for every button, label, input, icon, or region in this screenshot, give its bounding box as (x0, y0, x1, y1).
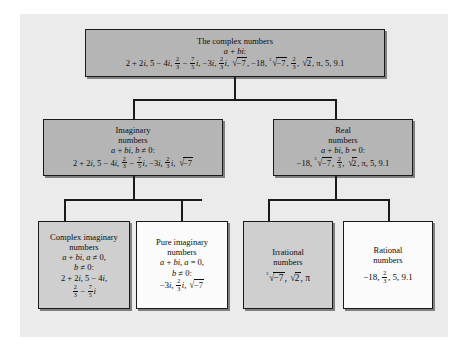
complex-imaginary-form-line2: b ≠ 0: (74, 262, 94, 273)
connector-to-real (335, 99, 337, 119)
connector-complex-down (234, 77, 236, 99)
real-examples: −18, 3√−7, 23, √2, π, 5, 9.1 (297, 156, 389, 170)
irrational-title-line2: numbers (273, 257, 302, 267)
complex-imaginary-examples-line2: 23 − 75i (72, 284, 96, 298)
real-title-line1: Real (335, 125, 351, 135)
irrational-title-line1: Irrational (272, 247, 304, 257)
complex-imaginary-title-line2: numbers (69, 242, 98, 252)
complex-imaginary-form-line1: a + bi, a ≠ 0, (62, 252, 106, 263)
real-title-line2: numbers (328, 135, 357, 145)
node-real-numbers: Real numbers a + bi, b = 0: −18, 3√−7, 2… (273, 119, 413, 176)
complex-imaginary-title-line1: Complex imaginary (50, 232, 118, 242)
node-complex-imaginary-numbers: Complex imaginary numbers a + bi, a ≠ 0,… (38, 221, 130, 309)
node-pure-imaginary-numbers: Pure imaginary numbers a + bi, a = 0, b … (136, 221, 228, 309)
pure-imaginary-title-line1: Pure imaginary (156, 237, 208, 247)
connector-imaginary-down (133, 176, 135, 199)
irrational-examples: 3√−7, √2, π (266, 272, 310, 284)
rational-title-line1: Rational (374, 245, 403, 255)
real-form: a + bi, b = 0: (321, 145, 365, 156)
node-irrational-numbers: Irrational numbers 3√−7, √2, π (243, 221, 333, 309)
complex-imaginary-examples-line1: 2 + 2i, 5 − 4i, (61, 273, 107, 284)
pure-imaginary-form-line1: a + bi, a = 0, (160, 257, 204, 268)
node-complex-numbers: The complex numbers a + bi: 2 + 2i, 5 − … (85, 29, 385, 77)
rational-examples: −18, 23, 5, 9.1 (363, 270, 412, 284)
connector-real-down (335, 176, 337, 199)
pure-imaginary-examples: −3i, 23i, √−7 (160, 278, 204, 292)
connector-to-rational (388, 199, 390, 221)
connector-level1-horizontal (133, 99, 336, 101)
connector-to-imaginary (133, 99, 135, 119)
complex-form: a + bi: (224, 46, 246, 57)
node-rational-numbers: Rational numbers −18, 23, 5, 9.1 (343, 221, 433, 309)
connector-to-pure-imaginary (181, 199, 183, 221)
imaginary-title-line1: Imaginary (116, 125, 151, 135)
complex-examples: 2 + 2i, 5 − 4i, 23 − 75i, −3i, 23i, √−7,… (126, 56, 345, 70)
pure-imaginary-form-line2: b ≠ 0: (172, 268, 192, 279)
imaginary-title-line2: numbers (118, 135, 147, 145)
connector-level2-right-horizontal (268, 199, 388, 201)
pure-imaginary-title-line2: numbers (167, 247, 196, 257)
node-imaginary-numbers: Imaginary numbers a + bi, b ≠ 0: 2 + 2i,… (43, 119, 223, 176)
rational-title-line2: numbers (373, 255, 402, 265)
connector-to-complex-imaginary (64, 199, 66, 221)
connector-to-irrational (268, 199, 270, 221)
complex-title: The complex numbers (197, 36, 273, 46)
imaginary-examples: 2 + 2i, 5 − 4i, 23 − 75i, −3i, 23i, √−7 (73, 156, 193, 170)
imaginary-form: a + bi, b ≠ 0: (111, 145, 155, 156)
